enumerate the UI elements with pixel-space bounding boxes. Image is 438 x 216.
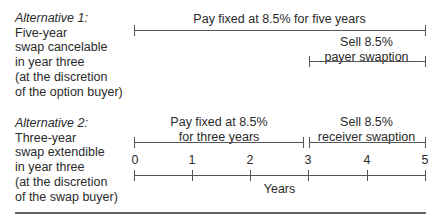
bottom-divider [15,212,426,214]
axis-tick [308,170,309,181]
alternative-2-line: (at the discretion [15,175,118,190]
alternative-1-line: Five-year [15,26,123,41]
alternative-2-line: of the swap buyer) [15,190,118,205]
bar-end-tick [134,25,135,36]
years-axis-label: Years [134,182,425,197]
bar-end-tick [425,137,426,148]
pay-fixed-three-years-label: Pay fixed at 8.5% for three years [134,115,304,144]
alternative-1-description: Alternative 1: Five-year swap cancelable… [15,11,123,99]
bar-end-tick [309,137,310,148]
axis-tick-label: 3 [300,153,316,167]
alternative-2-line: Three-year [15,131,118,146]
axis-tick [367,170,368,181]
bar-end-tick [134,137,135,148]
payer-swaption-label-line: Sell 8.5% [308,35,425,50]
axis-tick-label: 2 [242,153,258,167]
alternative-1-line: of the option buyer) [15,85,123,100]
alternative-2-description: Alternative 2: Three-year swap extendibl… [15,116,118,204]
alternative-1-line: swap cancelable [15,40,123,55]
pay-fixed-five-years-bar [134,30,425,31]
axis-tick-label: 4 [359,153,375,167]
axis-tick [192,170,193,181]
pay-fixed-five-years-label: Pay fixed at 8.5% for five years [134,12,425,27]
axis-tick-label: 5 [417,153,433,167]
alternative-1-line: (at the discretion [15,70,123,85]
receiver-swaption-label-line: Sell 8.5% [308,115,425,130]
alternative-1-line: in year three [15,55,123,70]
bar-end-tick [303,137,304,148]
years-axis-line [134,175,425,176]
receiver-swaption-label: Sell 8.5% receiver swaption [308,115,425,144]
bar-end-tick [425,25,426,36]
axis-tick-label: 1 [184,153,200,167]
bar-end-tick [425,56,426,67]
payer-swaption-label: Sell 8.5% payer swaption [308,35,425,64]
axis-tick-label: 0 [127,153,143,167]
bar-end-tick [309,56,310,67]
payer-swaption-bar [309,61,425,62]
pay-fixed-three-years-bar [134,142,303,143]
alternative-2-title: Alternative 2: [15,116,118,131]
axis-tick [134,170,135,181]
alternative-1-title: Alternative 1: [15,11,123,26]
axis-tick [425,170,426,181]
receiver-swaption-bar [309,142,425,143]
pay-fixed-three-years-label-line: Pay fixed at 8.5% [134,115,304,130]
alternative-2-line: swap extendible [15,145,118,160]
alternative-2-line: in year three [15,160,118,175]
axis-tick [250,170,251,181]
